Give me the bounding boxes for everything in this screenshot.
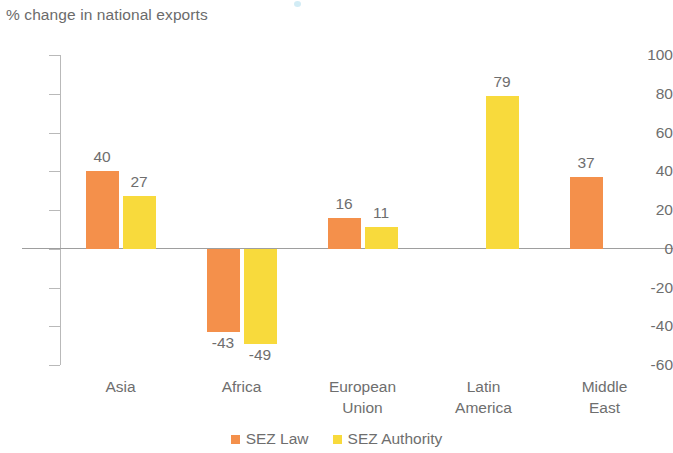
bar-sez-law	[328, 218, 361, 249]
bar-value-label: 40	[93, 148, 110, 166]
y-axis-tick	[49, 288, 60, 289]
y-axis-tick-label: 60	[629, 124, 673, 142]
legend-swatch-icon	[333, 435, 342, 444]
x-axis-category-label: EuropeanUnion	[329, 376, 396, 418]
x-axis-category-line: European	[329, 376, 396, 397]
x-axis-category-line: Asia	[105, 376, 135, 397]
y-axis-tick	[49, 171, 60, 172]
y-axis-tick	[49, 365, 60, 366]
y-axis-tick-label: 80	[629, 85, 673, 103]
bar-sez-authority	[365, 227, 398, 248]
x-axis-category-line: Union	[329, 397, 396, 418]
bar-value-label: -49	[249, 346, 271, 364]
y-axis-tick	[49, 94, 60, 95]
legend-label: SEZ Law	[246, 430, 309, 448]
y-axis-tick-label: -60	[629, 356, 673, 374]
y-axis-tick-label: 20	[629, 201, 673, 219]
y-axis-tick-label: 0	[629, 240, 673, 258]
y-axis-tick	[49, 210, 60, 211]
y-axis-tick-label: 40	[629, 162, 673, 180]
x-axis-category-label: Asia	[105, 376, 135, 397]
y-axis-tick-label: -20	[629, 279, 673, 297]
y-axis-tick-label: 100	[629, 46, 673, 64]
chart-title: % change in national exports	[6, 6, 208, 24]
bar-sez-authority	[244, 249, 277, 344]
chart-legend: SEZ LawSEZ Authority	[0, 430, 673, 448]
bar-sez-law	[86, 171, 119, 249]
legend-swatch-icon	[231, 435, 240, 444]
x-axis-category-line: America	[455, 397, 512, 418]
scan-artifact-speck	[294, 1, 301, 7]
bar-sez-law	[207, 249, 240, 332]
legend-item[interactable]: SEZ Law	[231, 430, 309, 448]
bar-value-label: 27	[130, 173, 147, 191]
bar-sez-authority	[123, 196, 156, 248]
bar-chart: % change in national exports 10080604020…	[0, 0, 673, 453]
x-axis-category-line: Latin	[455, 376, 512, 397]
bar-value-label: 16	[335, 195, 352, 213]
bar-sez-authority	[486, 96, 519, 249]
legend-label: SEZ Authority	[348, 430, 443, 448]
x-axis-category-line: Middle	[582, 376, 628, 397]
y-axis-tick	[49, 326, 60, 327]
x-axis-category-label: LatinAmerica	[455, 376, 512, 418]
x-axis-category-line: East	[582, 397, 628, 418]
bar-value-label: 11	[373, 204, 389, 222]
bar-value-label: 37	[577, 154, 594, 172]
y-axis-tick	[49, 249, 60, 250]
y-axis-tick	[49, 133, 60, 134]
legend-item[interactable]: SEZ Authority	[333, 430, 443, 448]
y-axis-tick	[49, 55, 60, 56]
x-axis-category-line: Africa	[222, 376, 262, 397]
bar-value-label: -43	[212, 334, 234, 352]
bar-value-label: 79	[493, 73, 510, 91]
bar-sez-law	[570, 177, 603, 249]
y-axis-tick-label: -40	[629, 317, 673, 335]
x-axis-category-label: Africa	[222, 376, 262, 397]
x-axis-category-label: MiddleEast	[582, 376, 628, 418]
